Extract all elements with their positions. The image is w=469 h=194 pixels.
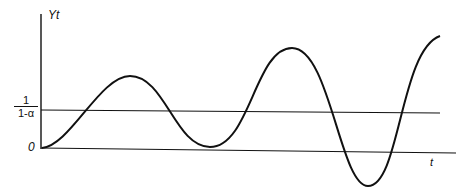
x-axis-label: t (430, 156, 433, 168)
equilibrium-numerator: 1 (14, 94, 38, 107)
equilibrium-denominator: 1-α (14, 107, 38, 119)
y-axis-label: Yt (48, 8, 59, 22)
chart-canvas (0, 0, 469, 194)
equilibrium-label: 1 1-α (14, 94, 38, 119)
x-axis (41, 148, 456, 153)
origin-label: 0 (28, 140, 35, 154)
equilibrium-line (41, 110, 440, 113)
